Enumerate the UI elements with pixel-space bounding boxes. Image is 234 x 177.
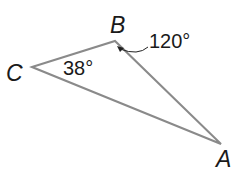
angle-label-c: 38° [63,58,93,78]
triangle-diagram: B C A 38° 120° [0,0,234,177]
vertex-label-c: C [6,62,23,85]
angle-label-b: 120° [149,31,190,51]
vertex-label-b: B [110,14,125,37]
triangle-abc [32,41,221,144]
vertex-label-a: A [216,148,231,171]
